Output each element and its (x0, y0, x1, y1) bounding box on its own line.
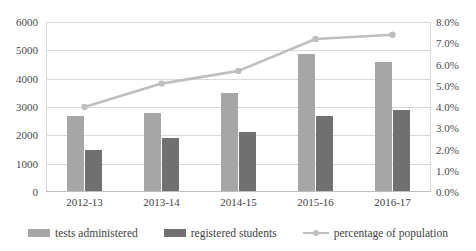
legend-label: registered students (191, 227, 277, 239)
x-axis-tick: 2016-17 (353, 196, 433, 208)
y-axis-right-tick: 0.0% (436, 187, 476, 198)
line-marker (81, 104, 87, 110)
legend-swatch-icon (164, 229, 186, 237)
y-axis-right-tick: 8.0% (436, 17, 476, 28)
y-axis-left-tick: 5000 (2, 45, 38, 56)
y-axis-right-tick: 1.0% (436, 166, 476, 177)
y-axis-right-tick: 4.0% (436, 102, 476, 113)
x-axis-tick: 2012-13 (45, 196, 125, 208)
legend-swatch-icon (28, 229, 50, 237)
legend-item-percentage-of-population[interactable]: percentage of population (303, 227, 448, 239)
chart-container: 0100020003000400050006000 0.0%1.0%2.0%3.… (0, 0, 476, 251)
legend-label: percentage of population (334, 227, 448, 239)
y-axis-right-tick: 5.0% (436, 81, 476, 92)
x-axis-tick: 2014-15 (199, 196, 279, 208)
y-axis-left-tick: 3000 (2, 102, 38, 113)
plot-area (46, 22, 431, 192)
line-marker (235, 68, 241, 74)
legend-item-tests-administered[interactable]: tests administered (28, 227, 138, 239)
y-axis-right-tick: 6.0% (436, 60, 476, 71)
y-axis-left-tick: 6000 (2, 17, 38, 28)
line-series-percentage-of-population (46, 22, 431, 192)
legend-label: tests administered (55, 227, 138, 239)
axis-baseline (46, 191, 431, 192)
line-marker (312, 36, 318, 42)
line-marker (158, 80, 164, 86)
y-axis-left-tick: 0 (2, 187, 38, 198)
y-axis-right-tick: 7.0% (436, 38, 476, 49)
legend-item-registered-students[interactable]: registered students (164, 227, 277, 239)
y-axis-right-tick: 2.0% (436, 145, 476, 156)
chart-legend: tests administered registered students p… (0, 222, 476, 244)
line-marker (389, 32, 395, 38)
y-axis-right-tick: 3.0% (436, 123, 476, 134)
x-axis-tick: 2015-16 (276, 196, 356, 208)
x-axis-tick: 2013-14 (122, 196, 202, 208)
y-axis-left-tick: 1000 (2, 159, 38, 170)
y-axis-left-tick: 2000 (2, 130, 38, 141)
y-axis-left-tick: 4000 (2, 74, 38, 85)
legend-line-icon (303, 229, 329, 237)
